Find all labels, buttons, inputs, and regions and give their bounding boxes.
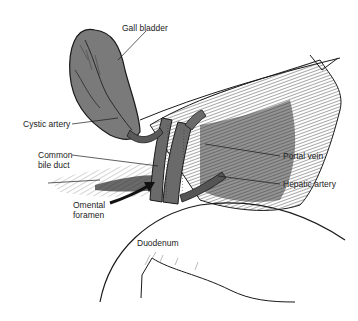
label-cystic-artery: Cystic artery bbox=[23, 119, 70, 129]
label-portal-vein: Portal vein bbox=[283, 151, 323, 161]
label-gall-bladder: Gall bladder bbox=[122, 23, 168, 33]
label-common-bile-duct-line2: bile duct bbox=[38, 160, 70, 170]
label-hepatic-artery: Hepatic artery bbox=[283, 179, 336, 189]
label-duodenum: Duodenum bbox=[137, 238, 179, 248]
label-omental-foramen-line2: foramen bbox=[73, 210, 104, 220]
anatomy-figure: Gall bladder Cystic artery Common bile d… bbox=[0, 0, 358, 321]
duodenum bbox=[100, 203, 345, 302]
label-common-bile-duct-line1: Common bbox=[38, 150, 72, 160]
label-omental-foramen-line1: Omental bbox=[73, 200, 105, 210]
